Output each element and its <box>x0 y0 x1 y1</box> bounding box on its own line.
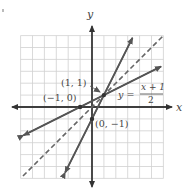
coordinate-graph: x y (1, 1) (−1, 0) (0, −1) y = x + 1 2 <box>0 0 188 192</box>
y-axis-label: y <box>86 8 94 21</box>
equation-lhs: y = <box>117 89 134 100</box>
equation-numerator: x + 1 <box>141 82 165 92</box>
equation-denominator: 2 <box>148 95 154 105</box>
point-marker <box>78 105 82 109</box>
point-label-1-1: (1, 1) <box>61 77 87 88</box>
point-marker <box>90 117 94 121</box>
point-label-0-neg1: (0, −1) <box>95 118 129 129</box>
point-marker <box>102 93 106 97</box>
corner-mark <box>2 9 4 12</box>
line-0-arrow <box>65 38 132 172</box>
point-label-neg1-0: (−1, 0) <box>43 92 77 103</box>
x-axis-label: x <box>176 101 183 114</box>
